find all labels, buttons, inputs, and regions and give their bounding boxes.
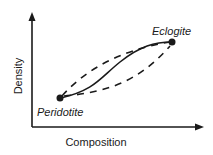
solid-transition-curve (61, 42, 172, 98)
x-axis-label: Composition (65, 136, 126, 148)
dashed-lower-curve (64, 46, 170, 96)
y-axis-label: Density (12, 57, 24, 94)
y-axis-arrow-icon (29, 12, 36, 21)
eclogite-point (169, 39, 176, 46)
density-composition-diagram: Peridotite Eclogite Composition Density (0, 0, 213, 155)
peridotite-point (57, 95, 64, 102)
eclogite-label: Eclogite (152, 25, 191, 37)
y-axis (29, 12, 36, 127)
peridotite-label: Peridotite (37, 106, 83, 118)
x-axis-arrow-icon (195, 124, 204, 131)
x-axis (32, 124, 204, 131)
dashed-upper-curve (62, 42, 170, 96)
